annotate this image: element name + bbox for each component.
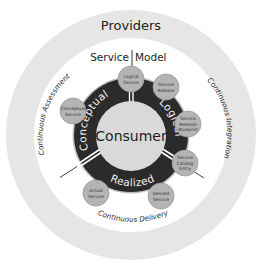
node-desired-service: Desired Service xyxy=(148,183,174,209)
svg-text:Catalog: Catalog xyxy=(177,161,194,166)
providers-label: Providers xyxy=(101,18,162,33)
svg-text:Service: Service xyxy=(88,194,104,199)
node-logical-service: Logical Service xyxy=(118,66,144,92)
consumer-label: Consumer xyxy=(95,128,167,144)
svg-text:Release: Release xyxy=(158,88,175,93)
node-service-release-blueprint: Service Release Blueprint xyxy=(175,111,201,137)
node-service-catalog-entry: Service Catalog Entry xyxy=(172,150,198,176)
service-model-diagram: Providers Service Model Consumer Concept… xyxy=(0,0,263,268)
svg-text:Service: Service xyxy=(177,155,193,160)
svg-text:Service: Service xyxy=(123,80,139,85)
model-header-label: Model xyxy=(135,51,167,63)
svg-text:Service: Service xyxy=(65,112,81,117)
svg-text:Conceptual: Conceptual xyxy=(61,106,85,111)
node-service-release: Service Release xyxy=(153,74,179,100)
svg-text:Desired: Desired xyxy=(153,191,170,196)
svg-text:Blueprint: Blueprint xyxy=(178,127,198,132)
service-header-label: Service xyxy=(90,51,129,63)
svg-text:Logical: Logical xyxy=(123,74,138,79)
svg-text:Service: Service xyxy=(158,82,174,87)
svg-text:Actual: Actual xyxy=(89,188,102,193)
svg-text:Release: Release xyxy=(180,122,197,127)
node-actual-service: Actual Service xyxy=(83,180,109,206)
svg-text:Service: Service xyxy=(180,116,196,121)
node-conceptual-service: Conceptual Service xyxy=(60,98,86,124)
svg-text:Entry: Entry xyxy=(179,166,191,171)
svg-text:Service: Service xyxy=(153,197,169,202)
